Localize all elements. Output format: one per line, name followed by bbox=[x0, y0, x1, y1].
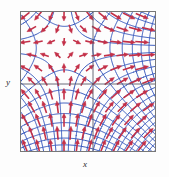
y-axis-label: y bbox=[6, 78, 10, 87]
x-axis-label: x bbox=[83, 160, 87, 169]
plot-canvas bbox=[0, 0, 169, 177]
vector-field-figure: y x bbox=[0, 0, 169, 177]
